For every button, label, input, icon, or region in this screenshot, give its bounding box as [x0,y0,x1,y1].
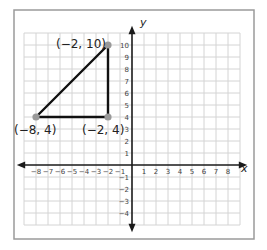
x-axis-label: x [240,162,248,175]
y-tick-label: 2 [125,138,129,146]
y-tick-label: 1 [125,150,129,158]
point-marker [32,113,39,120]
x-tick-label: 8 [226,168,230,176]
y-tick-label: −2 [119,186,129,194]
y-tick-label: −1 [119,174,129,182]
x-tick-label: −8 [31,168,41,176]
y-axis-label: y [139,16,147,29]
coordinate-plane-figure: −8−7−6−5−4−3−2−112345678−4−3−2−112345678… [0,0,267,250]
x-tick-label: 4 [178,168,183,176]
y-tick-label: 8 [125,66,129,74]
y-tick-label: −3 [119,198,129,206]
y-tick-label: 3 [125,126,129,134]
coordinate-plane: −8−7−6−5−4−3−2−112345678−4−3−2−112345678… [0,0,267,250]
x-tick-label: 7 [214,168,218,176]
point-marker [104,113,111,120]
y-tick-label: 6 [125,90,130,98]
x-tick-label: −3 [91,168,101,176]
point-label-b: (−8, 4) [14,123,56,137]
x-tick-label: −5 [67,168,77,176]
x-tick-label: 5 [190,168,194,176]
x-tick-label: 1 [142,168,146,176]
x-tick-label: −7 [43,168,53,176]
y-tick-label: 7 [125,78,129,86]
x-tick-label: −6 [55,168,66,176]
x-tick-label: −4 [79,168,90,176]
y-tick-label: 4 [125,114,130,122]
y-tick-label: 5 [125,102,129,110]
x-tick-label: −2 [103,168,113,176]
y-tick-label: 9 [125,54,129,62]
y-tick-label: −4 [119,210,130,218]
y-tick-label: 10 [120,42,129,50]
x-tick-label: 6 [202,168,207,176]
point-label-c: (−2, 4) [82,123,124,137]
x-tick-label: 3 [166,168,170,176]
point-label-a: (−2, 10) [56,37,106,51]
x-tick-label: 2 [154,168,158,176]
